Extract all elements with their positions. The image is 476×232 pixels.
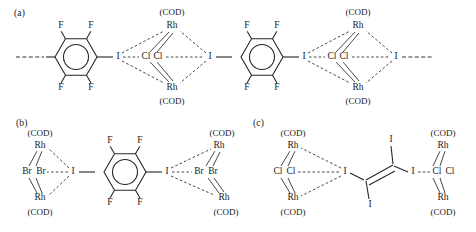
atom-cl: Cl xyxy=(432,167,442,177)
atom-cl: Cl xyxy=(273,167,283,177)
atom-cl: Cl xyxy=(445,167,455,177)
atom-cl: Cl xyxy=(286,167,296,177)
panel-c-bonds xyxy=(0,0,476,232)
ligand-cod: (COD) xyxy=(430,208,456,217)
atom-i: I xyxy=(343,167,347,177)
atom-rh: Rh xyxy=(287,193,299,203)
ligand-cod: (COD) xyxy=(430,129,456,138)
atom-i: I xyxy=(389,135,393,145)
figure-caption xyxy=(4,224,474,232)
atom-rh: Rh xyxy=(287,141,299,151)
atom-rh: Rh xyxy=(437,193,449,203)
atom-i: I xyxy=(411,167,415,177)
atom-i: I xyxy=(368,200,372,210)
ligand-cod: (COD) xyxy=(280,208,306,217)
chemical-structure-figure: (a) xyxy=(0,0,476,232)
ligand-cod: (COD) xyxy=(280,129,306,138)
atom-rh: Rh xyxy=(437,141,449,151)
